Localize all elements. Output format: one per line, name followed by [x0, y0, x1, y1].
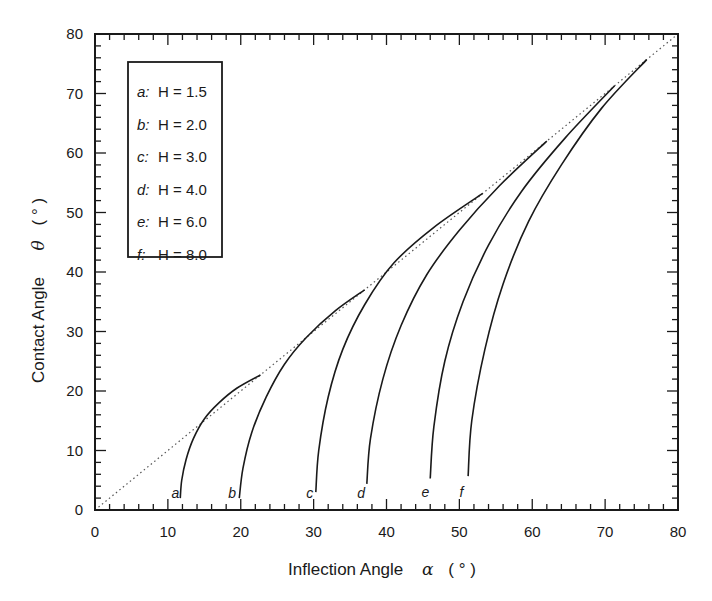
x-axis-title-text: Inflection Angle	[288, 560, 403, 579]
x-axis-tick-labels: 01020304050607080	[91, 523, 687, 540]
x-tick-label: 40	[378, 523, 395, 540]
x-axis-unit: ( ° )	[448, 560, 476, 579]
legend-value: H = 1.5	[158, 83, 207, 100]
legend-item-b: b:H = 2.0	[137, 116, 207, 133]
curves	[180, 60, 646, 499]
curve-a	[180, 375, 260, 498]
curve-label-c: c	[306, 485, 313, 501]
legend-key: f:	[137, 246, 145, 263]
legend-key: a:	[137, 83, 150, 100]
legend-item-c: c:H = 3.0	[137, 148, 207, 165]
y-tick-label: 40	[66, 263, 83, 280]
y-tick-label: 0	[75, 501, 83, 518]
y-axis-symbol: θ	[28, 240, 48, 250]
y-tick-label: 20	[66, 382, 83, 399]
legend-item-a: a:H = 1.5	[137, 83, 207, 100]
x-tick-label: 80	[670, 523, 687, 540]
y-axis-title: Contact Angle θ ( ° )	[28, 198, 48, 383]
curve-label-b: b	[228, 485, 236, 501]
legend: a:H = 1.5b:H = 2.0c:H = 3.0d:H = 4.0e:H …	[128, 62, 222, 263]
y-tick-label: 50	[66, 204, 83, 221]
legend-key: c:	[137, 148, 149, 165]
y-tick-label: 80	[66, 25, 83, 42]
legend-key: b:	[137, 116, 150, 133]
legend-item-e: e:H = 6.0	[137, 213, 207, 230]
curve-label-a: a	[172, 485, 180, 501]
curve-b	[239, 290, 364, 498]
y-axis-unit: ( ° )	[29, 198, 48, 226]
x-tick-label: 50	[451, 523, 468, 540]
curve-f	[468, 60, 647, 477]
x-tick-label: 30	[305, 523, 322, 540]
y-tick-label: 30	[66, 323, 83, 340]
x-tick-label: 70	[597, 523, 614, 540]
x-tick-label: 60	[524, 523, 541, 540]
x-axis-symbol: α	[422, 559, 434, 579]
x-tick-label: 20	[232, 523, 249, 540]
curve-label-e: e	[421, 484, 429, 500]
legend-value: H = 4.0	[158, 181, 207, 198]
y-tick-label: 10	[66, 442, 83, 459]
x-tick-label: 0	[91, 523, 99, 540]
y-axis-tick-labels: 01020304050607080	[66, 25, 83, 518]
x-tick-label: 10	[160, 523, 177, 540]
curve-labels: abcdef	[172, 484, 466, 501]
legend-item-d: d:H = 4.0	[137, 181, 207, 198]
legend-value: H = 8.0	[158, 246, 207, 263]
y-tick-label: 60	[66, 144, 83, 161]
y-axis-title-text: Contact Angle	[29, 277, 48, 383]
legend-key: e:	[137, 213, 150, 230]
curve-e	[430, 86, 614, 479]
chart: abcdef 01020304050607080 010203040506070…	[0, 0, 712, 601]
curve-label-f: f	[459, 484, 465, 500]
legend-value: H = 2.0	[158, 116, 207, 133]
curve-label-d: d	[357, 485, 366, 501]
legend-value: H = 3.0	[158, 148, 207, 165]
legend-value: H = 6.0	[158, 213, 207, 230]
x-axis-title: Inflection Angle α ( ° )	[288, 559, 476, 579]
curve-c	[316, 193, 483, 492]
legend-key: d:	[137, 181, 150, 198]
y-tick-label: 70	[66, 85, 83, 102]
